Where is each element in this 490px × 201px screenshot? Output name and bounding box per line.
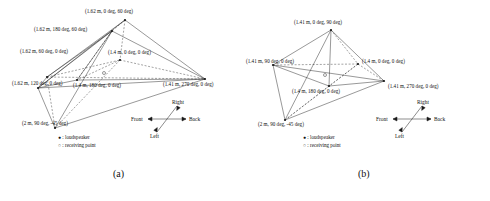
hollow-dot-icon: ○ bbox=[58, 142, 61, 148]
legend-panel-b: ● : loudspeaker ○ : receiving point bbox=[303, 134, 341, 149]
panel-a-caption: (a) bbox=[113, 168, 124, 179]
legend-label-receiving-point: : receiving point bbox=[62, 142, 95, 148]
legend-panel-a: ● : loudspeaker ○ : receiving point bbox=[58, 134, 96, 149]
hollow-dot-icon: ○ bbox=[303, 142, 306, 148]
label-vertex-apex: (1.41 m, 0 deg, 90 deg) bbox=[294, 20, 342, 25]
compass-label-left: Left bbox=[150, 133, 159, 139]
label-vertex-left: (1.41 m, 90 deg, 0 deg) bbox=[246, 59, 294, 64]
label-vertex-right: (1.41 m, 270 deg, 0 deg) bbox=[163, 82, 214, 87]
label-vertex-apex: (1.62 m, 0 deg, 60 deg) bbox=[85, 9, 133, 14]
label-vertex-bottom: (2 m, 90 deg, -45 deg) bbox=[22, 121, 68, 126]
label-vertex-center-back: (1.4 m, 180 deg, 0 deg) bbox=[73, 83, 121, 88]
legend-row-loudspeaker: ● : loudspeaker bbox=[58, 134, 96, 142]
label-vertex-center-front: (1.4 m, 0 deg, 0 deg) bbox=[362, 59, 405, 64]
panel-b-caption: (b) bbox=[358, 168, 370, 179]
legend-label-loudspeaker: : loudspeaker bbox=[307, 134, 334, 140]
compass-label-front: Front bbox=[376, 116, 388, 122]
legend-label-receiving-point: : receiving point bbox=[307, 142, 340, 148]
legend-row-loudspeaker: ● : loudspeaker bbox=[303, 134, 341, 142]
legend-row-receiving-point: ○ : receiving point bbox=[303, 142, 341, 150]
label-vertex-bottom: (2 m, 90 deg, -45 deg) bbox=[258, 122, 304, 127]
compass-label-right: Right bbox=[172, 99, 184, 105]
label-vertex-upper-back: (1.62 m, 180 deg, 60 deg) bbox=[34, 27, 87, 32]
compass-label-right: Right bbox=[417, 99, 429, 105]
label-vertex-left-lower: (1.62 m, 120 deg, 0 deg) bbox=[12, 81, 63, 86]
legend-row-receiving-point: ○ : receiving point bbox=[58, 142, 96, 150]
legend-label-loudspeaker: : loudspeaker bbox=[62, 134, 89, 140]
label-vertex-center-back: (1.4 m, 180 deg, 0 deg) bbox=[292, 89, 340, 94]
filled-dot-icon: ● bbox=[303, 134, 306, 140]
loudspeaker-arrangement-figure: (1.62 m, 0 deg, 60 deg) (1.62 m, 180 deg… bbox=[0, 0, 490, 201]
receiving-point-marker bbox=[103, 72, 106, 75]
label-vertex-center-front: (1.4 m, 0 deg, 0 deg) bbox=[108, 50, 151, 55]
compass-label-front: Front bbox=[131, 116, 143, 122]
compass-label-back: Back bbox=[189, 116, 200, 122]
compass-label-left: Left bbox=[395, 133, 404, 139]
panel-a: (1.62 m, 0 deg, 60 deg) (1.62 m, 180 deg… bbox=[0, 0, 245, 201]
compass-label-back: Back bbox=[434, 116, 445, 122]
label-vertex-left-upper: (1.62 m, 60 deg, 0 deg) bbox=[20, 49, 68, 54]
receiving-point-marker bbox=[324, 74, 327, 77]
label-vertex-right: (1.41 m, 270 deg, 0 deg) bbox=[388, 84, 439, 89]
panel-b: (1.41 m, 0 deg, 90 deg) (1.41 m, 90 deg,… bbox=[245, 0, 490, 201]
filled-dot-icon: ● bbox=[58, 134, 61, 140]
